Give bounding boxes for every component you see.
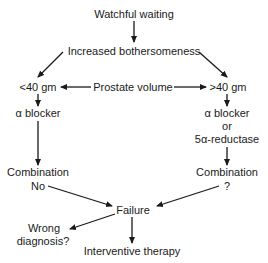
node-combination-left: Combination <box>4 166 72 179</box>
node-combination-right-question: ? <box>193 180 261 193</box>
node-combination-right: Combination <box>193 166 261 179</box>
node-lt40gm: <40 gm <box>14 81 62 94</box>
node-watchful-waiting: Watchful waiting <box>84 8 184 21</box>
node-failure: Failure <box>108 204 158 217</box>
node-prostate-volume: Prostate volume <box>92 81 174 94</box>
node-alpha-blocker-left: α blocker <box>8 107 68 120</box>
node-increased-bothersomeness: Increased bothersomeness <box>64 45 204 58</box>
node-interventive-therapy: Interventive therapy <box>82 245 182 258</box>
node-gt40gm: >40 gm <box>205 81 251 94</box>
node-or-right: or <box>197 120 257 133</box>
node-alpha-blocker-right: α blocker <box>197 107 257 120</box>
node-combination-left-no: No <box>4 180 72 193</box>
node-wrong-diagnosis-line2: diagnosis? <box>12 235 74 248</box>
node-5a-reductase-right: 5α-reductase <box>190 133 264 146</box>
arrow-bother-to-lt40 <box>38 52 63 77</box>
node-wrong-diagnosis-line1: Wrong <box>18 222 70 235</box>
